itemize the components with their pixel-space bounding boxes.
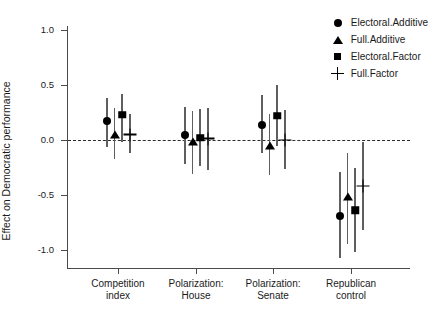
x-axis-group-label-line: Republican xyxy=(296,278,406,290)
y-axis-tick-label: 1.0 xyxy=(14,25,54,35)
coefficient-plot: Effect on Democratic performance 1.00.50… xyxy=(0,0,434,322)
marker-circle-icon xyxy=(336,212,344,220)
x-axis-group-label: Republicancontrol xyxy=(296,278,406,301)
marker-circle-icon xyxy=(334,19,342,27)
marker-plus-icon xyxy=(357,180,370,193)
marker-plus-icon xyxy=(124,128,137,141)
x-axis-tick xyxy=(196,268,197,274)
marker-triangle-icon xyxy=(265,141,275,149)
marker-square-icon xyxy=(351,207,359,215)
y-axis-tick xyxy=(61,140,67,141)
legend-marker xyxy=(330,49,346,65)
legend-item: Full.Factor xyxy=(330,65,428,82)
legend-marker xyxy=(330,66,346,82)
legend-item-label: Full.Additive xyxy=(351,34,405,45)
marker-plus-icon xyxy=(331,67,344,80)
marker-triangle-icon xyxy=(110,130,120,138)
marker-plus-icon xyxy=(202,132,215,145)
legend-item-label: Electoral.Additive xyxy=(351,17,428,28)
legend-item-label: Electoral.Factor xyxy=(351,51,421,62)
marker-plus-icon xyxy=(279,134,292,147)
marker-triangle-icon xyxy=(343,193,353,201)
marker-square-icon xyxy=(334,53,342,61)
y-axis-tick-label: 0.5 xyxy=(14,80,54,90)
y-axis-tick xyxy=(61,195,67,196)
marker-triangle-icon xyxy=(333,36,343,44)
x-axis-tick xyxy=(273,268,274,274)
y-axis-label-container: Effect on Democratic performance xyxy=(0,0,14,322)
legend: Electoral.AdditiveFull.AdditiveElectoral… xyxy=(330,14,428,82)
marker-square-icon xyxy=(273,112,281,120)
y-axis-tick-label: -1.0 xyxy=(14,245,54,255)
legend-item: Electoral.Factor xyxy=(330,48,428,65)
y-axis-tick xyxy=(61,250,67,251)
legend-item-label: Full.Factor xyxy=(351,68,398,79)
legend-item: Full.Additive xyxy=(330,31,428,48)
marker-circle-icon xyxy=(258,121,266,129)
y-axis-label: Effect on Democratic performance xyxy=(0,81,12,240)
y-axis-tick-label: 0.0 xyxy=(14,135,54,145)
y-axis-tick xyxy=(61,30,67,31)
marker-circle-icon xyxy=(103,117,111,125)
x-axis-tick xyxy=(351,268,352,274)
x-axis-group-label-line: control xyxy=(296,290,406,302)
y-axis-tick-label: -0.5 xyxy=(14,190,54,200)
legend-marker xyxy=(330,15,346,31)
marker-square-icon xyxy=(118,111,126,119)
y-axis-tick xyxy=(61,85,67,86)
legend-marker xyxy=(330,32,346,48)
x-axis-tick xyxy=(118,268,119,274)
legend-item: Electoral.Additive xyxy=(330,14,428,31)
